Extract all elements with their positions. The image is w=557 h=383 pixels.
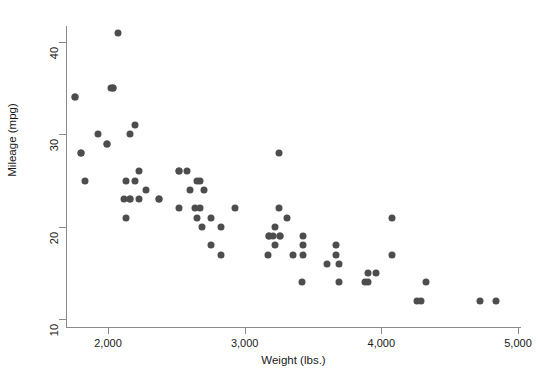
data-point — [364, 270, 371, 277]
data-point — [136, 196, 143, 203]
y-tick-label-10: 10 — [48, 317, 60, 343]
data-point — [122, 177, 129, 184]
data-point — [184, 168, 191, 175]
data-point — [196, 205, 203, 212]
data-point — [176, 205, 183, 212]
x-tick-4000 — [381, 327, 382, 334]
data-point — [126, 196, 133, 203]
data-point — [389, 251, 396, 258]
y-tick-20 — [59, 227, 66, 228]
data-point — [143, 186, 150, 193]
y-tick-30 — [59, 134, 66, 135]
data-point — [218, 251, 225, 258]
y-axis-title-text: Mileage (mpg) — [6, 40, 18, 240]
x-axis-title: Weight (lbs.) — [66, 354, 521, 366]
data-point — [277, 233, 284, 240]
data-point — [333, 242, 340, 249]
y-axis-title: Mileage (mpg) — [6, 0, 20, 302]
data-point — [72, 94, 79, 101]
data-point — [187, 186, 194, 193]
data-point — [300, 242, 307, 249]
data-point — [132, 122, 139, 129]
data-point — [271, 242, 278, 249]
data-point — [232, 205, 239, 212]
data-point — [300, 251, 307, 258]
scatter-plot: 10203040 2,0003,0004,0005,000 Mileage (m… — [0, 0, 557, 383]
data-point — [270, 233, 277, 240]
x-tick-2000 — [108, 327, 109, 334]
data-point — [476, 297, 483, 304]
data-point — [199, 223, 206, 230]
data-point — [423, 279, 430, 286]
data-point — [335, 279, 342, 286]
x-axis-title-text: Weight (lbs.) — [261, 354, 325, 366]
data-point — [132, 177, 139, 184]
x-tick-3000 — [245, 327, 246, 334]
data-point — [389, 214, 396, 221]
data-point — [114, 29, 121, 36]
data-point — [284, 214, 291, 221]
x-tick-label-3000: 3,000 — [231, 337, 259, 349]
data-point — [110, 85, 117, 92]
data-point — [200, 186, 207, 193]
data-point — [335, 260, 342, 267]
data-point — [264, 251, 271, 258]
data-point — [136, 168, 143, 175]
data-point — [218, 223, 225, 230]
data-point — [95, 131, 102, 138]
y-axis-line — [66, 26, 67, 328]
data-point — [372, 270, 379, 277]
y-tick-10 — [59, 319, 66, 320]
x-axis-line — [66, 327, 521, 328]
data-point — [81, 177, 88, 184]
data-point — [122, 214, 129, 221]
y-tick-label-40: 40 — [48, 40, 60, 66]
data-point — [275, 149, 282, 156]
x-tick-label-2000: 2,000 — [94, 337, 122, 349]
data-point — [493, 297, 500, 304]
x-tick-label-4000: 4,000 — [368, 337, 396, 349]
y-tick-label-30: 30 — [48, 132, 60, 158]
data-point — [196, 177, 203, 184]
data-point — [289, 251, 296, 258]
data-point — [207, 214, 214, 221]
data-point — [103, 140, 110, 147]
y-tick-label-20: 20 — [48, 225, 60, 251]
x-tick-label-5000: 5,000 — [504, 337, 532, 349]
data-point — [207, 242, 214, 249]
data-point — [176, 168, 183, 175]
data-point — [413, 297, 420, 304]
data-point — [299, 279, 306, 286]
data-point — [77, 149, 84, 156]
data-point — [364, 279, 371, 286]
data-point — [300, 233, 307, 240]
data-point — [126, 131, 133, 138]
data-point — [323, 260, 330, 267]
data-point — [275, 205, 282, 212]
data-point — [271, 223, 278, 230]
data-point — [333, 251, 340, 258]
x-tick-5000 — [518, 327, 519, 334]
data-point — [193, 214, 200, 221]
data-point — [155, 196, 162, 203]
y-tick-40 — [59, 42, 66, 43]
